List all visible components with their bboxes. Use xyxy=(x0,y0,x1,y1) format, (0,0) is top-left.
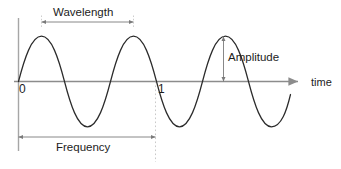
waveform-diagram: Wavelength Frequency Amplitude time 0 1 xyxy=(0,0,341,169)
amplitude-label: Amplitude xyxy=(228,52,279,64)
waveform-svg xyxy=(0,0,341,169)
frequency-label: Frequency xyxy=(56,142,110,154)
x-tick-label-zero: 0 xyxy=(19,83,26,95)
x-tick-label-one: 1 xyxy=(158,83,165,95)
x-axis-label-time: time xyxy=(311,77,332,88)
wavelength-label: Wavelength xyxy=(53,7,113,19)
